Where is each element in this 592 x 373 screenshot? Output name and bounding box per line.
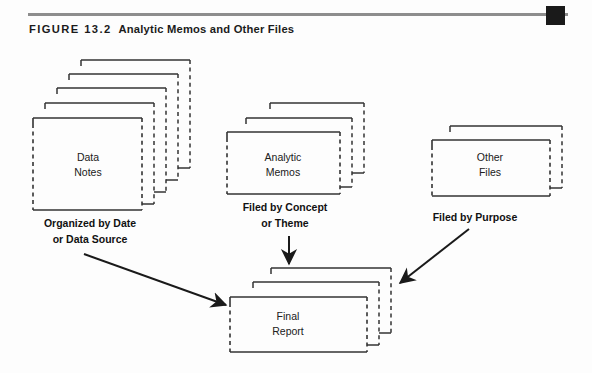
data-notes-layer-4 [69, 74, 178, 180]
stack-other-files: Other Files [432, 126, 562, 196]
other-files-layer-2 [450, 126, 562, 188]
data-notes-label-line1: Data [77, 151, 99, 163]
arrow-other-files-to-final-report [400, 229, 469, 283]
caption-analytic-memos-line2: or Theme [261, 217, 308, 229]
figure-diagram: Data Notes Organized by Date or Data Sou… [0, 0, 592, 373]
other-files-label-line1: Other [477, 151, 504, 163]
caption-other-files-line1: Filed by Purpose [433, 211, 518, 223]
data-notes-layer-1 [33, 118, 142, 210]
stack-analytic-memos: Analytic Memos [227, 103, 364, 194]
caption-analytic-memos-line1: Filed by Concept [243, 201, 328, 213]
analytic-memos-layer-1 [227, 132, 340, 194]
other-files-label-line2: Files [479, 166, 501, 178]
analytic-memos-label-line2: Memos [266, 166, 300, 178]
final-report-label-line1: Final [277, 310, 300, 322]
caption-data-notes-line1: Organized by Date [44, 217, 136, 229]
figure-page: FIGURE 13.2Analytic Memos and Other File… [0, 0, 592, 373]
analytic-memos-label-line1: Analytic [265, 151, 302, 163]
arrow-data-notes-to-final-report [84, 254, 226, 305]
stack-data-notes: Data Notes [33, 60, 190, 210]
final-report-label-line2: Report [272, 325, 304, 337]
final-report-layer-3 [271, 268, 391, 333]
data-notes-label-line2: Notes [74, 166, 101, 178]
caption-data-notes-line2: or Data Source [53, 233, 128, 245]
stack-final-report: Final Report [230, 268, 391, 352]
